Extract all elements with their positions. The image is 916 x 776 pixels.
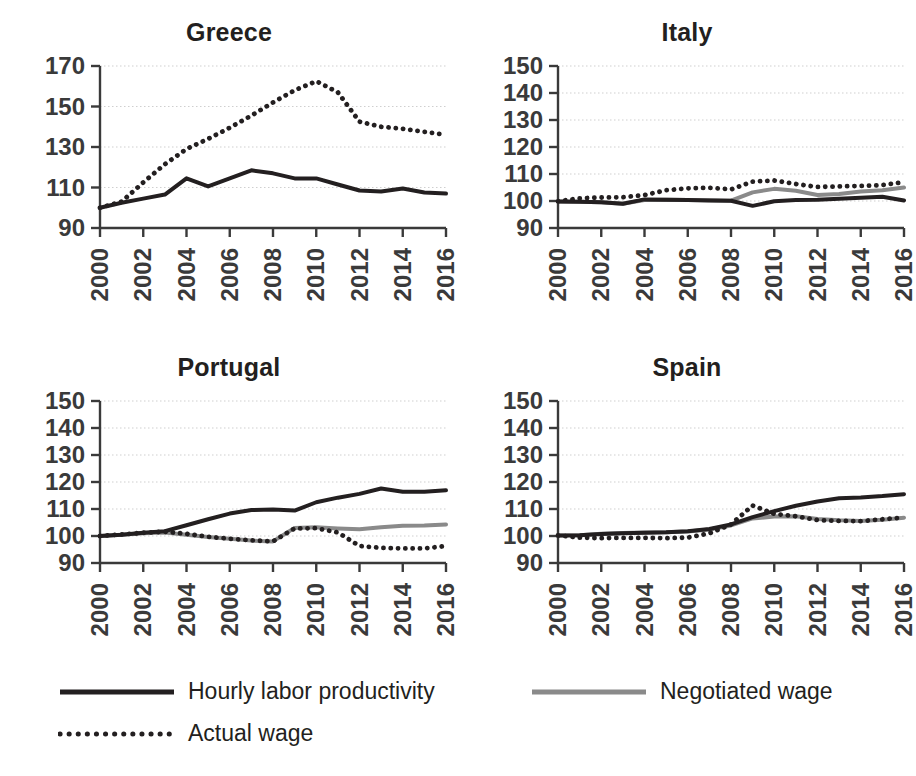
legend-item-negotiated-wage: Negotiated wage	[530, 678, 833, 705]
y-axis-tick-label: 150	[503, 52, 543, 79]
panel-grid: Greece 901101301501702000200220042006200…	[0, 0, 916, 670]
x-axis-tick-label: 2016	[432, 583, 458, 636]
y-axis-tick-label: 130	[45, 441, 85, 468]
y-axis-tick-label: 90	[516, 549, 543, 576]
x-axis-tick-label: 2012	[346, 583, 373, 636]
x-axis-tick-label: 2014	[847, 582, 874, 636]
legend-item-actual-wage: Actual wage	[58, 720, 313, 747]
y-axis-tick-label: 140	[503, 79, 543, 106]
y-axis-tick-label: 110	[46, 495, 85, 522]
y-axis-tick-label: 120	[503, 468, 543, 495]
x-axis-tick-label: 2010	[302, 583, 329, 636]
x-axis-tick-label: 2000	[544, 583, 571, 636]
panel-greece: Greece 901101301501702000200220042006200…	[0, 0, 458, 335]
x-axis-tick-label: 2002	[587, 248, 614, 301]
legend-swatch-negotiated-wage	[530, 681, 648, 703]
legend-swatch-productivity	[58, 681, 176, 703]
y-axis-tick-label: 100	[503, 187, 543, 214]
x-axis-tick-label: 2010	[760, 248, 787, 301]
plot-portugal: 9010011012013014015020002002200420062008…	[0, 335, 458, 670]
x-axis-tick-label: 2006	[674, 248, 701, 301]
x-axis-tick-label: 2016	[890, 248, 916, 301]
plot-italy: 9010011012013014015020002002200420062008…	[458, 0, 916, 335]
x-axis-tick-label: 2012	[346, 248, 373, 301]
x-axis-tick-label: 2012	[804, 583, 831, 636]
y-axis-tick-label: 140	[45, 414, 85, 441]
y-axis-tick-label: 120	[45, 468, 85, 495]
x-axis-tick-label: 2004	[631, 247, 658, 301]
legend-label-actual-wage: Actual wage	[188, 720, 313, 747]
x-axis-tick-label: 2014	[847, 247, 874, 301]
series-line	[100, 170, 446, 207]
y-axis-tick-label: 90	[58, 549, 85, 576]
y-axis-tick-label: 110	[504, 495, 543, 522]
y-axis-tick-label: 170	[45, 52, 85, 79]
x-axis-tick-label: 2002	[129, 583, 156, 636]
x-axis-tick-label: 2016	[890, 583, 916, 636]
x-axis-tick-label: 2012	[804, 248, 831, 301]
panel-italy: Italy 9010011012013014015020002002200420…	[458, 0, 916, 335]
x-axis-tick-label: 2006	[216, 583, 243, 636]
x-axis-tick-label: 2008	[717, 583, 744, 636]
x-axis-tick-label: 2004	[173, 582, 200, 636]
y-axis-tick-label: 130	[45, 133, 85, 160]
chart-legend: Hourly labor productivity Negotiated wag…	[0, 672, 916, 776]
x-axis-tick-label: 2008	[259, 248, 286, 301]
x-axis-tick-label: 2010	[760, 583, 787, 636]
y-axis-tick-label: 130	[503, 441, 543, 468]
x-axis-tick-label: 2000	[86, 583, 113, 636]
y-axis-tick-label: 150	[503, 387, 543, 414]
y-axis-tick-label: 150	[45, 93, 85, 120]
legend-swatch-actual-wage	[58, 723, 176, 745]
x-axis-tick-label: 2000	[86, 248, 113, 301]
series-line	[100, 528, 446, 548]
y-axis-tick-label: 120	[503, 133, 543, 160]
legend-item-productivity: Hourly labor productivity	[58, 678, 435, 705]
chart-figure: Greece 901101301501702000200220042006200…	[0, 0, 916, 776]
y-axis-tick-label: 140	[503, 414, 543, 441]
plot-greece: 9011013015017020002002200420062008201020…	[0, 0, 458, 335]
x-axis-tick-label: 2006	[674, 583, 701, 636]
x-axis-tick-label: 2014	[389, 247, 416, 301]
y-axis-tick-label: 90	[58, 214, 85, 241]
y-axis-tick-label: 110	[46, 174, 85, 201]
x-axis-tick-label: 2000	[544, 248, 571, 301]
x-axis-tick-label: 2014	[389, 582, 416, 636]
x-axis-tick-label: 2008	[717, 248, 744, 301]
series-line	[558, 494, 904, 535]
panel-portugal: Portugal 9010011012013014015020002002200…	[0, 335, 458, 670]
x-axis-tick-label: 2004	[631, 582, 658, 636]
x-axis-tick-label: 2008	[259, 583, 286, 636]
x-axis-tick-label: 2002	[587, 583, 614, 636]
y-axis-tick-label: 100	[503, 522, 543, 549]
x-axis-tick-label: 2006	[216, 248, 243, 301]
y-axis-tick-label: 130	[503, 106, 543, 133]
series-line	[100, 488, 446, 536]
plot-spain: 9010011012013014015020002002200420062008…	[458, 335, 916, 670]
x-axis-tick-label: 2010	[302, 248, 329, 301]
y-axis-tick-label: 110	[504, 160, 543, 187]
x-axis-tick-label: 2016	[432, 248, 458, 301]
legend-label-negotiated-wage: Negotiated wage	[660, 678, 833, 705]
y-axis-tick-label: 90	[516, 214, 543, 241]
legend-label-productivity: Hourly labor productivity	[188, 678, 435, 705]
x-axis-tick-label: 2002	[129, 248, 156, 301]
y-axis-tick-label: 100	[45, 522, 85, 549]
y-axis-tick-label: 150	[45, 387, 85, 414]
panel-spain: Spain 9010011012013014015020002002200420…	[458, 335, 916, 670]
x-axis-tick-label: 2004	[173, 247, 200, 301]
